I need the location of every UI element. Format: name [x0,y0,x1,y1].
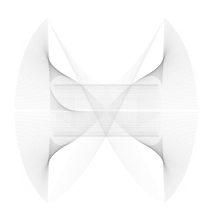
line-envelope-figure [0,0,212,221]
figure-stage: Dense string-art envelope forming an hou… [0,0,212,221]
